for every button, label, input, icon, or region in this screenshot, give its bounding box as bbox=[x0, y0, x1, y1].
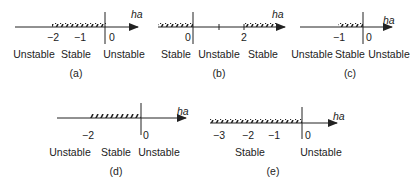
panel-d-region-label: Unstable bbox=[49, 146, 90, 158]
panel-b-region-label: Unstable bbox=[198, 48, 239, 60]
panel-c-tick: −1 bbox=[333, 31, 345, 43]
panel-b-tick: 2 bbox=[241, 31, 247, 43]
panel-a-tick: −1 bbox=[74, 31, 86, 43]
panel-c-axis bbox=[300, 12, 392, 44]
panel-e-region-label: Stable bbox=[235, 146, 265, 158]
panel-b-tick: 0 bbox=[185, 31, 191, 43]
panel-d-tick: −2 bbox=[82, 129, 94, 141]
panel-a-region-label: Unstable bbox=[13, 48, 54, 60]
panel-e-stable-hatch bbox=[210, 119, 302, 123]
panel-c-region-label: Stable bbox=[335, 48, 365, 60]
panel-c-region-label: Unstable bbox=[291, 48, 332, 60]
panel-e-tick: −3 bbox=[213, 129, 225, 141]
panel-e-caption: (e) bbox=[267, 165, 280, 177]
panel-d-axis-label: ha bbox=[177, 105, 189, 117]
panel-d-tick: 0 bbox=[143, 129, 149, 141]
panel-b-region-label: Stable bbox=[161, 48, 191, 60]
panel-c-stable-hatch bbox=[338, 23, 363, 27]
panel-d-caption: (d) bbox=[110, 165, 123, 177]
panel-c-axis-label: ha bbox=[383, 14, 395, 26]
panel-e-tick: −1 bbox=[268, 129, 280, 141]
panel-b-caption: (b) bbox=[213, 67, 226, 79]
panel-d-stable-hatch bbox=[89, 114, 141, 118]
panel-e-tick: 0 bbox=[305, 129, 311, 141]
panel-c-tick: 0 bbox=[366, 31, 372, 43]
panel-b-axis-label: ha bbox=[272, 8, 284, 20]
panel-c-region-label: Unstable bbox=[368, 48, 409, 60]
panel-c-caption: (c) bbox=[344, 67, 356, 79]
panel-a-caption: (a) bbox=[70, 67, 83, 79]
panel-d-axis bbox=[57, 103, 186, 135]
panel-b-stable-hatch-left bbox=[158, 23, 193, 27]
panel-d-region-label: Unstable bbox=[138, 146, 179, 158]
panel-a-tick: −2 bbox=[47, 31, 59, 43]
panel-e-tick: −2 bbox=[242, 129, 254, 141]
panel-b-axis bbox=[158, 12, 285, 44]
panel-a-region-label: Stable bbox=[61, 48, 91, 60]
panel-e-region-label: Unstable bbox=[300, 146, 341, 158]
panel-a-tick: 0 bbox=[109, 31, 115, 43]
panel-b-stable-hatch-right bbox=[244, 23, 278, 27]
panel-b-region-label: Stable bbox=[248, 48, 278, 60]
panel-e-axis-label: ha bbox=[333, 110, 345, 122]
panel-a-axis-label: ha bbox=[131, 8, 143, 20]
panel-a-stable-hatch bbox=[52, 23, 106, 27]
panel-d-region-label: Stable bbox=[101, 146, 131, 158]
panel-a-region-label: Unstable bbox=[103, 48, 144, 60]
